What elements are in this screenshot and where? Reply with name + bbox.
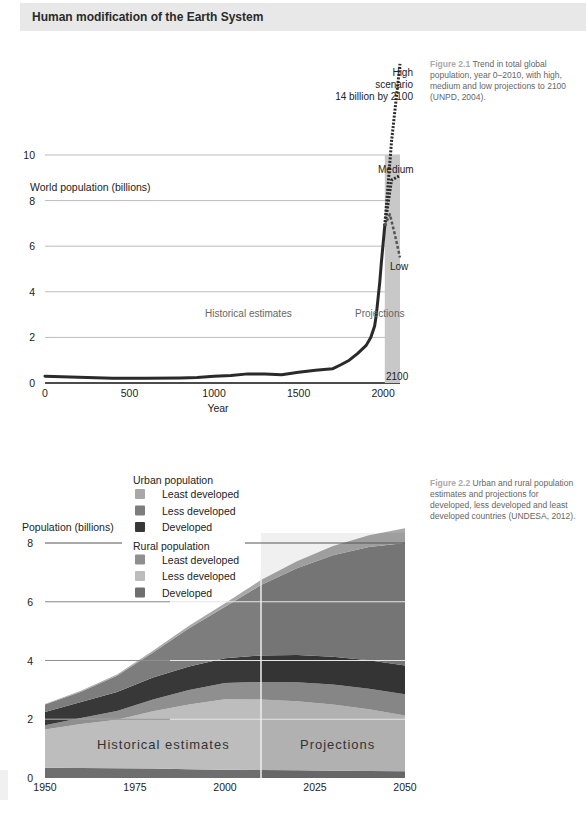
legend-item-label: Developed: [162, 587, 212, 599]
x-tick-label: 2050: [393, 781, 417, 793]
y-tick-label: 0: [27, 772, 33, 784]
legend-swatch: [135, 555, 145, 565]
projections-label: Projections: [300, 737, 375, 752]
legend: Urban populationLeast developedLess deve…: [133, 474, 239, 599]
x-tick-label: 2000: [213, 781, 237, 793]
legend-swatch: [135, 506, 145, 516]
legend-item-label: Less developed: [162, 505, 236, 517]
historical-estimates-label: Historical estimates: [97, 737, 230, 752]
legend-item-label: Least developed: [162, 554, 239, 566]
legend-swatch: [135, 588, 145, 598]
legend-group-title: Rural population: [133, 540, 210, 552]
legend-item-label: Least developed: [162, 488, 239, 500]
legend-item-label: Developed: [162, 521, 212, 533]
x-tick-label: 1975: [123, 781, 147, 793]
y-axis-title: Population (billions): [22, 521, 114, 533]
legend-item-label: Less developed: [162, 570, 236, 582]
legend-swatch: [135, 571, 145, 581]
y-tick-label: 2: [27, 713, 33, 725]
legend-swatch: [135, 522, 145, 532]
x-tick-label: 1950: [33, 781, 57, 793]
y-tick-label: 4: [27, 655, 33, 667]
x-tick-label: 2025: [303, 781, 327, 793]
y-tick-label: 6: [27, 596, 33, 608]
legend-swatch: [135, 489, 145, 499]
y-tick-label: 8: [27, 537, 33, 549]
legend-group-title: Urban population: [133, 474, 213, 486]
